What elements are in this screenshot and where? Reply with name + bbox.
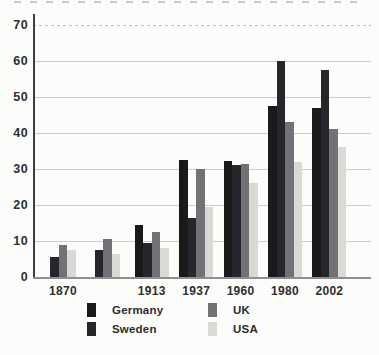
- bar-2002-germany: [312, 108, 321, 277]
- y-tick-label-70: 70: [0, 18, 28, 32]
- legend-column-left: Germany Sweden: [87, 303, 163, 341]
- bar-1870-sweden: [50, 257, 59, 277]
- legend-item-sweden: Sweden: [87, 322, 163, 336]
- bar-1980-sweden: [277, 61, 286, 277]
- x-tick-label-1937: 1937: [174, 284, 218, 298]
- y-tick-label-60: 60: [0, 54, 28, 68]
- y-tick-label-0: 0: [0, 270, 28, 284]
- bar-chart: 010203040506070187019131937196019802002 …: [0, 0, 379, 355]
- x-tick-label-1870: 1870: [41, 284, 85, 298]
- bar-2002-uk: [329, 129, 338, 277]
- bar-1937-usa: [205, 207, 214, 277]
- x-tick-label-1960: 1960: [219, 284, 263, 298]
- legend-label-uk: UK: [233, 304, 250, 316]
- bar-2002-usa: [338, 147, 347, 277]
- legend-swatch-usa: [208, 322, 217, 336]
- legend-swatch-uk: [208, 303, 217, 317]
- bar-1960-sweden: [232, 165, 241, 277]
- y-axis: [33, 14, 35, 278]
- legend-label-germany: Germany: [112, 304, 163, 316]
- bar-1937-germany: [179, 160, 188, 277]
- x-axis: [33, 277, 371, 279]
- x-tick-label-1913: 1913: [130, 284, 174, 298]
- y-tick-label-10: 10: [0, 234, 28, 248]
- bar-2002-sweden: [321, 70, 330, 277]
- gridline-70: [33, 25, 371, 26]
- y-tick-label-40: 40: [0, 126, 28, 140]
- legend-label-sweden: Sweden: [112, 323, 157, 335]
- legend-column-right: UK USA: [208, 303, 258, 341]
- x-tick-label-1980: 1980: [263, 284, 307, 298]
- y-tick-label-20: 20: [0, 198, 28, 212]
- bar-1913-usa: [160, 248, 169, 277]
- bar-1980-usa: [294, 162, 303, 277]
- legend-item-usa: USA: [208, 322, 258, 336]
- bar-1913-germany: [135, 225, 144, 277]
- legend-swatch-sweden: [87, 322, 96, 336]
- bar-g2-usa: [112, 254, 121, 277]
- bar-g2-sweden: [95, 250, 104, 277]
- plot-area: 010203040506070187019131937196019802002: [0, 0, 379, 300]
- bar-1913-uk: [152, 232, 161, 277]
- bar-g2-uk: [103, 239, 112, 277]
- bar-1870-uk: [59, 245, 68, 277]
- bar-1980-germany: [268, 106, 277, 277]
- bar-1870-usa: [67, 250, 76, 277]
- legend: Germany Sweden UK USA: [0, 303, 379, 345]
- y-tick-label-50: 50: [0, 90, 28, 104]
- bar-1960-germany: [224, 161, 233, 277]
- bar-1913-sweden: [143, 243, 152, 277]
- bar-1960-usa: [249, 183, 258, 277]
- bar-1937-sweden: [188, 218, 197, 277]
- gridline-60: [33, 61, 371, 62]
- legend-item-germany: Germany: [87, 303, 163, 317]
- bar-1980-uk: [285, 122, 294, 277]
- y-tick-label-30: 30: [0, 162, 28, 176]
- bar-1960-uk: [241, 164, 250, 277]
- legend-label-usa: USA: [233, 323, 258, 335]
- legend-swatch-germany: [87, 303, 96, 317]
- x-tick-label-2002: 2002: [307, 284, 351, 298]
- legend-item-uk: UK: [208, 303, 258, 317]
- bar-1937-uk: [196, 169, 205, 277]
